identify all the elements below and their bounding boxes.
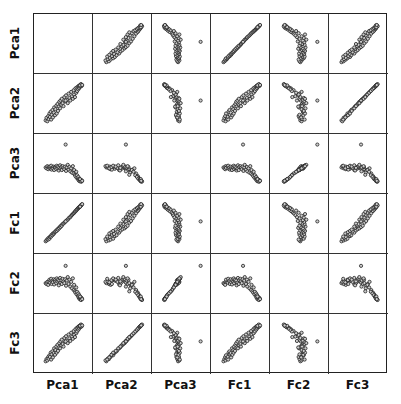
panel-fc3-vs-pca3	[152, 314, 211, 374]
scatter-points	[93, 314, 152, 374]
panel-pca1-vs-fc3	[329, 14, 388, 74]
panel-fc3-vs-pca2	[93, 314, 152, 374]
scatter-points	[329, 254, 388, 314]
panel-pca2-vs-pca2	[93, 74, 152, 134]
panel-fc2-vs-fc3	[329, 254, 388, 314]
scatter-points	[329, 14, 388, 74]
panel-fc1-vs-pca1	[34, 194, 93, 254]
panel-pca3-vs-fc3	[329, 134, 388, 194]
scatter-points	[34, 194, 93, 254]
panel-pca2-vs-pca1	[34, 74, 93, 134]
scatter-points	[93, 254, 152, 314]
panel-fc1-vs-fc2	[270, 194, 329, 254]
column-label-fc3: Fc3	[328, 378, 387, 392]
column-label-pca1: Pca1	[33, 378, 92, 392]
scatter-points	[152, 194, 211, 254]
row-label-fc2: Fc2	[2, 253, 28, 313]
panel-fc2-vs-pca1	[34, 254, 93, 314]
scatter-points	[34, 314, 93, 374]
panel-pca2-vs-fc1	[211, 74, 270, 134]
scatter-points	[270, 194, 329, 254]
scatter-points	[211, 14, 270, 74]
scatter-points	[152, 14, 211, 74]
panel-fc2-vs-pca3	[152, 254, 211, 314]
row-label-fc1: Fc1	[2, 193, 28, 253]
column-label-pca3: Pca3	[151, 378, 210, 392]
scatter-points	[270, 314, 329, 374]
row-label-pca3: Pca3	[2, 133, 28, 193]
panel-fc1-vs-pca2	[93, 194, 152, 254]
scatter-points	[211, 134, 270, 194]
panel-pca1-vs-pca2	[93, 14, 152, 74]
scatter-points	[329, 134, 388, 194]
row-label-pca1: Pca1	[2, 13, 28, 73]
panel-pca2-vs-fc3	[329, 74, 388, 134]
panel-pca3-vs-pca1	[34, 134, 93, 194]
panel-fc2-vs-fc1	[211, 254, 270, 314]
panel-pca1-vs-pca3	[152, 14, 211, 74]
row-label-fc3: Fc3	[2, 313, 28, 373]
scatter-points	[93, 14, 152, 74]
panel-pca1-vs-fc2	[270, 14, 329, 74]
panel-pca3-vs-fc1	[211, 134, 270, 194]
scatter-points	[152, 314, 211, 374]
column-label-fc2: Fc2	[269, 378, 328, 392]
scatter-points	[270, 134, 329, 194]
scatter-points	[93, 134, 152, 194]
scatter-points	[93, 194, 152, 254]
scatter-points	[152, 254, 211, 314]
scatter-points	[211, 74, 270, 134]
scatter-points	[329, 74, 388, 134]
scatter-points	[34, 254, 93, 314]
panel-fc1-vs-fc1	[211, 194, 270, 254]
panel-pca3-vs-pca2	[93, 134, 152, 194]
panel-fc1-vs-pca3	[152, 194, 211, 254]
row-label-pca2: Pca2	[2, 73, 28, 133]
panel-pca2-vs-pca3	[152, 74, 211, 134]
scatter-points	[270, 74, 329, 134]
scatter-points	[329, 194, 388, 254]
panel-fc3-vs-fc2	[270, 314, 329, 374]
panel-fc1-vs-fc3	[329, 194, 388, 254]
scatter-points	[152, 74, 211, 134]
scatter-points	[34, 74, 93, 134]
panel-pca1-vs-pca1	[34, 14, 93, 74]
scatter-matrix	[33, 13, 387, 373]
scatter-points	[211, 254, 270, 314]
panel-fc3-vs-fc1	[211, 314, 270, 374]
panel-fc2-vs-pca2	[93, 254, 152, 314]
panel-pca1-vs-fc1	[211, 14, 270, 74]
panel-fc3-vs-pca1	[34, 314, 93, 374]
panel-pca3-vs-pca3	[152, 134, 211, 194]
scatter-points	[34, 134, 93, 194]
panel-fc2-vs-fc2	[270, 254, 329, 314]
column-label-pca2: Pca2	[92, 378, 151, 392]
column-label-fc1: Fc1	[210, 378, 269, 392]
panel-fc3-vs-fc3	[329, 314, 388, 374]
scatter-points	[211, 314, 270, 374]
panel-pca2-vs-fc2	[270, 74, 329, 134]
scatter-points	[270, 14, 329, 74]
panel-pca3-vs-fc2	[270, 134, 329, 194]
